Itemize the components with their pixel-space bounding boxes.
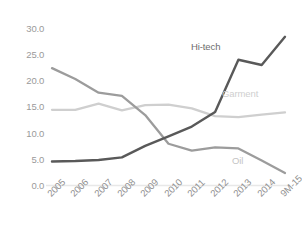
- series-label-oil: Oil: [232, 155, 243, 166]
- x-tick-label: 2007: [92, 177, 114, 199]
- x-tick-label: 2006: [68, 177, 90, 199]
- line-chart: 30.0 25.0 20.0 15.0 10.0 5.0 0.0 2005200…: [0, 0, 302, 225]
- x-tick-label: 2013: [231, 177, 253, 199]
- x-tick-label: 2009: [138, 177, 160, 199]
- x-tick-label: 2014: [255, 177, 277, 199]
- x-tick-label: 2008: [115, 177, 137, 199]
- x-tick-label: 9M-15: [278, 173, 302, 199]
- x-tick-label: 2012: [208, 177, 230, 199]
- x-tick-label: 2010: [162, 177, 184, 199]
- series-label-garment: Garment: [222, 88, 258, 99]
- x-tick-label: 2005: [45, 177, 67, 199]
- x-tick-label: 2011: [185, 177, 207, 199]
- x-axis: 2005200620072008200920102011201220132014…: [0, 0, 302, 225]
- series-label-hitech: Hi-tech: [191, 41, 220, 52]
